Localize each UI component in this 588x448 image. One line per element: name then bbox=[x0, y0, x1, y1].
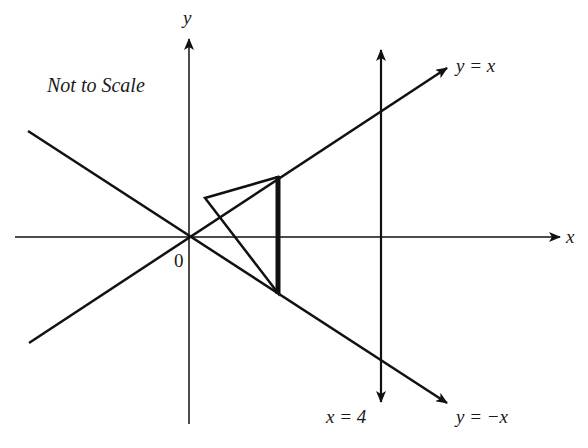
not-to-scale-note: Not to Scale bbox=[46, 74, 145, 96]
label-x-equals-4: x = 4 bbox=[325, 406, 367, 427]
line-y-equals-x bbox=[29, 68, 447, 343]
coordinate-diagram: x y 0 Not to Scale y = x y = −x x = 4 bbox=[0, 0, 588, 448]
label-y-equals-neg-x: y = −x bbox=[454, 406, 509, 427]
y-axis-label: y bbox=[181, 7, 192, 28]
x-axis-label: x bbox=[565, 226, 575, 247]
origin-label: 0 bbox=[174, 250, 184, 271]
triangle bbox=[205, 177, 278, 293]
label-y-equals-x: y = x bbox=[454, 55, 496, 76]
line-y-equals-neg-x bbox=[28, 131, 447, 403]
